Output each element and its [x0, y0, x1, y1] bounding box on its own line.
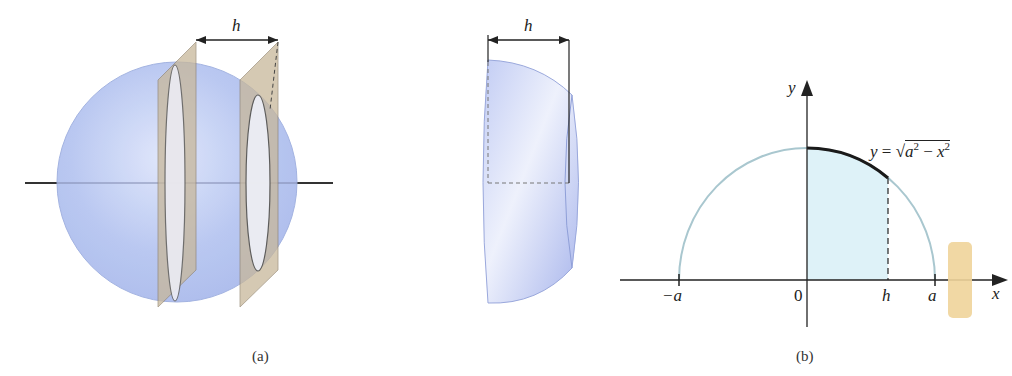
caption-b: (b): [796, 348, 814, 365]
tick-label-h: h: [882, 286, 891, 306]
semicircle-graph: y x −a 0 h a y = √a2 − x2: [600, 60, 1012, 350]
caption-a: (a): [252, 348, 269, 365]
tick-label-zero: 0: [794, 286, 803, 306]
sphere-slab-figure: h: [0, 0, 360, 340]
sphere-with-planes-graphic: [0, 0, 360, 340]
slab-figure: h: [440, 0, 600, 340]
x-axis-label: x: [992, 284, 1000, 304]
tick-label-neg-a: −a: [662, 286, 682, 306]
tick-label-a: a: [928, 286, 937, 306]
dimension-label-h: h: [524, 16, 533, 36]
y-axis-label: y: [788, 78, 796, 98]
curve-equation: y = √a2 − x2: [870, 140, 950, 162]
semicircle-plot: [600, 60, 1012, 350]
dimension-label-h: h: [232, 16, 241, 36]
slab-graphic: [440, 0, 600, 340]
